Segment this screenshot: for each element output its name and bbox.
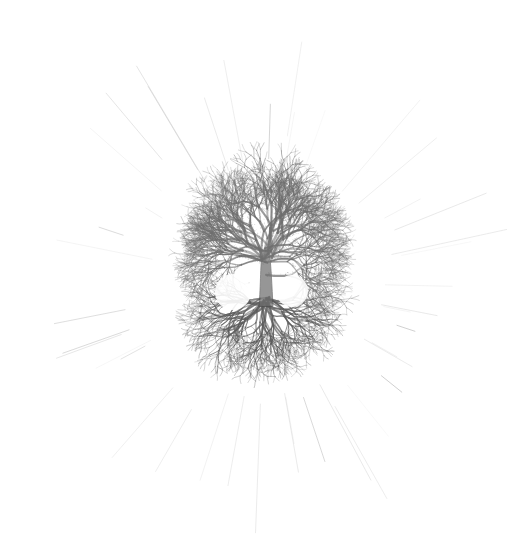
bark-stipple (258, 239, 259, 240)
bark-stipple (236, 252, 237, 253)
bark-stipple (306, 233, 307, 234)
canopy-branch (234, 158, 241, 159)
bark-stipple (302, 240, 303, 241)
bark-stipple (304, 221, 305, 222)
bark-stipple (238, 201, 239, 202)
canopy-branch (206, 301, 209, 306)
bark-stipple (270, 245, 271, 246)
bark-stipple (244, 239, 245, 240)
bark-stipple (243, 232, 244, 233)
bark-stipple (306, 264, 307, 265)
canopy-branch (192, 196, 197, 198)
bark-stipple (222, 246, 223, 247)
bark-stipple (260, 252, 261, 253)
bark-stipple (226, 254, 227, 255)
bark-stipple (303, 236, 304, 237)
bark-stipple (276, 244, 277, 245)
bark-stipple (264, 219, 265, 220)
bark-stipple (266, 192, 267, 193)
bark-stipple (236, 212, 237, 213)
bark-stipple (274, 188, 275, 189)
bark-stipple (237, 218, 238, 219)
bark-stipple (214, 251, 215, 252)
bark-stipple (230, 227, 231, 228)
bark-stipple (241, 234, 242, 235)
bark-stipple (277, 186, 278, 187)
bark-stipple (304, 223, 305, 224)
canopy-branch (222, 162, 224, 168)
bark-stipple (278, 254, 279, 255)
bark-stipple (255, 231, 256, 232)
bark-stipple (259, 262, 260, 263)
bark-stipple (232, 221, 233, 222)
bark-stipple (277, 209, 278, 210)
bark-stipple (281, 215, 282, 216)
bark-stipple (300, 253, 301, 254)
bark-stipple (257, 237, 258, 238)
bark-stipple (241, 208, 242, 209)
bark-stipple (230, 231, 231, 232)
canopy-branch (308, 320, 312, 323)
bark-stipple (266, 249, 267, 250)
bark-stipple (299, 274, 300, 275)
bark-stipple (244, 237, 245, 238)
bark-stipple (276, 237, 277, 238)
bark-stipple (290, 228, 291, 229)
bark-stipple (286, 206, 287, 207)
bark-stipple (253, 226, 254, 227)
bark-stipple (245, 237, 246, 238)
bark-stipple (260, 216, 261, 217)
bark-stipple (216, 234, 217, 235)
bark-stipple (249, 245, 250, 246)
bark-stipple (279, 249, 280, 250)
canopy-branch (351, 240, 356, 241)
bark-stipple (297, 233, 298, 234)
bark-stipple (291, 244, 292, 245)
bark-stipple (280, 246, 281, 247)
bark-stipple (283, 223, 284, 224)
bark-stipple (216, 268, 217, 269)
bark-stipple (246, 230, 247, 231)
bark-stipple (232, 224, 233, 225)
bark-stipple (252, 234, 253, 235)
bark-stipple (235, 249, 236, 250)
bark-stipple (294, 234, 295, 235)
bark-stipple (284, 207, 285, 208)
bark-stipple (267, 219, 268, 220)
bark-stipple (227, 258, 228, 259)
bark-stipple (244, 235, 245, 236)
bark-stipple (299, 274, 300, 275)
bark-stipple (293, 274, 294, 275)
canopy-branch (309, 311, 313, 316)
bark-stipple (279, 211, 280, 212)
bark-stipple (277, 209, 278, 210)
bark-stipple (271, 211, 272, 212)
bark-stipple (262, 263, 263, 264)
bark-stipple (225, 243, 226, 244)
bark-stipple (259, 206, 260, 207)
bark-stipple (284, 182, 285, 183)
bark-stipple (270, 216, 271, 217)
canopy-branch (342, 266, 348, 268)
bark-stipple (258, 247, 259, 248)
bark-stipple (230, 264, 231, 265)
bark-stipple (240, 224, 241, 225)
bark-stipple (235, 211, 236, 212)
bark-stipple (254, 241, 255, 242)
bark-stipple (246, 244, 247, 245)
bark-stipple (276, 241, 277, 242)
bark-stipple (279, 257, 280, 258)
bark-stipple (239, 259, 240, 260)
canopy-branch (269, 167, 272, 171)
bark-stipple (259, 202, 260, 203)
bark-stipple (300, 255, 301, 256)
bark-stipple (242, 235, 243, 236)
bark-stipple (289, 253, 290, 254)
bark-stipple (280, 274, 281, 275)
bark-stipple (292, 231, 293, 232)
bark-stipple (274, 258, 275, 259)
bark-stipple (239, 247, 240, 248)
bark-stipple (302, 249, 303, 250)
bark-stipple (284, 234, 285, 235)
bark-stipple (303, 207, 304, 208)
